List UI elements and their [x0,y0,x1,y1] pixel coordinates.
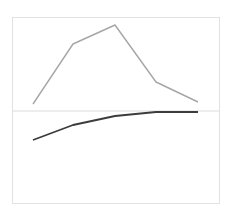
series-upper-line [33,25,198,104]
line-chart [0,0,234,216]
series-lower-line [33,112,198,140]
series-group [33,25,198,140]
